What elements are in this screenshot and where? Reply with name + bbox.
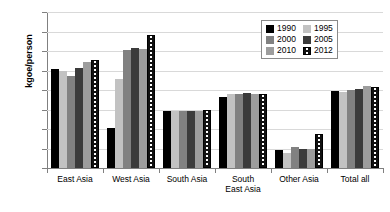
- bar-2012: [371, 87, 379, 168]
- x-tick-mark: [47, 168, 48, 173]
- legend-item-1990: 1990: [266, 24, 296, 33]
- bar-chart: kgoe/person 050100150200250300350400 Eas…: [0, 0, 390, 212]
- bar-2012: [147, 35, 155, 168]
- x-tick-mark: [383, 168, 384, 173]
- bar-2010: [139, 49, 147, 168]
- legend-item-2005: 2005: [303, 35, 333, 44]
- bar-2010: [195, 111, 203, 168]
- x-tick-mark: [103, 168, 104, 173]
- bar-2000: [179, 111, 187, 168]
- bar-group: [103, 12, 159, 168]
- x-tick-mark: [215, 168, 216, 173]
- legend-label: 2012: [314, 46, 333, 55]
- legend-item-1995: 1995: [303, 24, 333, 33]
- x-axis-category-label: West Asia: [103, 174, 159, 194]
- bar-2000: [291, 147, 299, 168]
- bar-2005: [355, 89, 363, 168]
- bar-2010: [251, 94, 259, 168]
- bar-2010: [307, 149, 315, 168]
- bar-1995: [115, 79, 123, 168]
- bar-2012: [259, 94, 267, 168]
- bar-2005: [131, 48, 139, 169]
- bar-2012: [315, 134, 323, 168]
- bar-2005: [187, 111, 195, 168]
- bar-group: [159, 12, 215, 168]
- bar-2012: [91, 60, 99, 168]
- x-axis-category-label: Total all: [327, 174, 383, 194]
- bar-2010: [83, 62, 91, 168]
- chart-legend: 199019952000200520102012: [261, 20, 338, 59]
- legend-swatch-2010: [266, 47, 274, 55]
- legend-label: 2010: [277, 46, 296, 55]
- bar-1995: [59, 71, 67, 168]
- bar-2005: [243, 93, 251, 168]
- x-tick-mark: [159, 168, 160, 173]
- legend-swatch-2000: [266, 36, 274, 44]
- legend-label: 2000: [277, 35, 296, 44]
- x-axis-category-label: South Asia: [159, 174, 215, 194]
- bar-group: [47, 12, 103, 168]
- legend-item-2010: 2010: [266, 46, 296, 55]
- bar-1990: [219, 97, 227, 168]
- bar-2000: [347, 90, 355, 168]
- bar-1990: [107, 128, 115, 168]
- bar-2005: [75, 68, 83, 168]
- legend-label: 1995: [314, 24, 333, 33]
- x-tick-mark: [271, 168, 272, 173]
- legend-label: 1990: [277, 24, 296, 33]
- bar-2010: [363, 86, 371, 168]
- bar-1990: [163, 111, 171, 168]
- x-axis-ticks: [47, 168, 383, 173]
- bar-1990: [331, 91, 339, 168]
- legend-swatch-1990: [266, 25, 274, 33]
- legend-swatch-1995: [303, 25, 311, 33]
- bar-2000: [235, 94, 243, 168]
- x-axis-category-label: East Asia: [47, 174, 103, 194]
- x-axis-labels: East AsiaWest AsiaSouth AsiaSouth East A…: [47, 174, 383, 194]
- legend-swatch-2005: [303, 36, 311, 44]
- bar-2012: [203, 110, 211, 168]
- bar-2005: [299, 149, 307, 169]
- bar-1995: [283, 153, 291, 168]
- bar-2000: [67, 76, 75, 168]
- legend-item-2012: 2012: [303, 46, 333, 55]
- bar-1995: [227, 94, 235, 168]
- y-axis-title: kgoe/person: [24, 6, 34, 116]
- legend-swatch-2012: [303, 47, 311, 55]
- bar-1990: [51, 69, 59, 168]
- bar-1995: [339, 92, 347, 168]
- x-tick-mark: [327, 168, 328, 173]
- legend-item-2000: 2000: [266, 35, 296, 44]
- bar-1990: [275, 150, 283, 168]
- bar-1995: [171, 111, 179, 168]
- x-axis-category-label: South East Asia: [215, 174, 271, 194]
- legend-label: 2005: [314, 35, 333, 44]
- bar-2000: [123, 50, 131, 168]
- x-axis-category-label: Other Asia: [271, 174, 327, 194]
